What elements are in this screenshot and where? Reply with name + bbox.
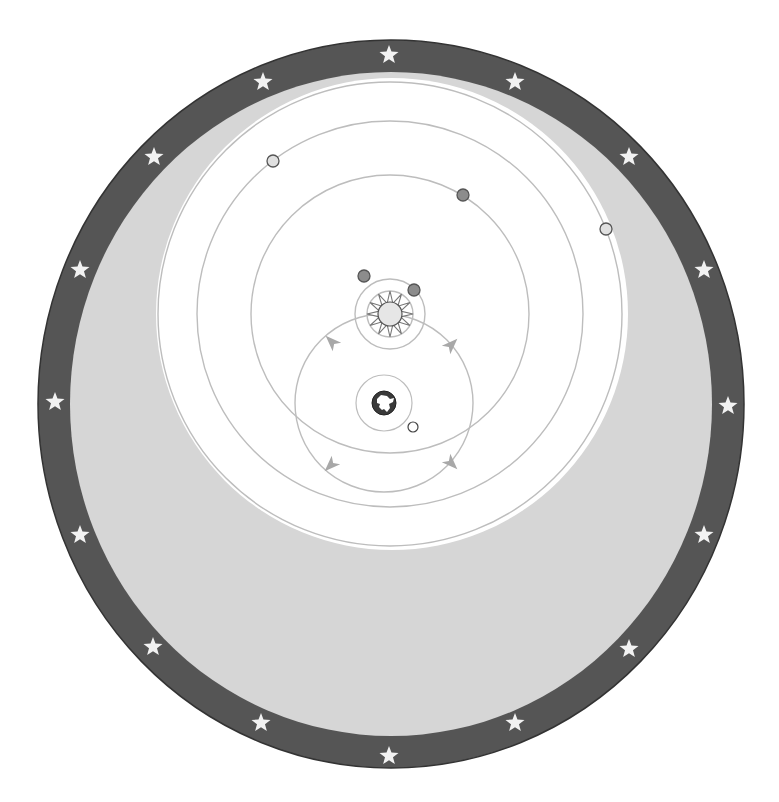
planet-mercury-icon [408,284,420,296]
planet-saturn-icon [600,223,612,235]
sun-icon [378,302,402,326]
planet-jupiter-icon [267,155,279,167]
planet-mars-icon [457,189,469,201]
diagram-canvas [0,0,779,802]
moon-icon [408,422,418,432]
planet-venus-icon [358,270,370,282]
